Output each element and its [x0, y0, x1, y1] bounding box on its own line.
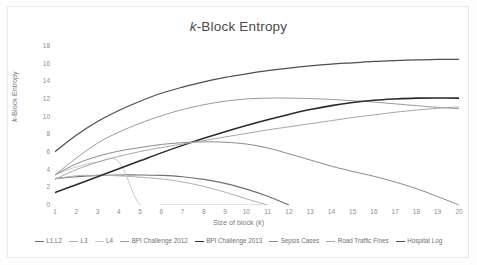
x-axis-tick-label: 4: [111, 208, 127, 215]
y-axis-title: k-Block Entropy: [10, 55, 19, 139]
legend-item[interactable]: Hospital Log: [396, 237, 443, 245]
y-axis-title-rest: -Block Entropy: [10, 71, 19, 118]
chart-page: k-Block Entropy 024681012141618 k-Block …: [0, 0, 477, 265]
y-axis-tick-label: 2: [28, 183, 50, 191]
x-axis-tick-label: 1: [47, 208, 63, 215]
legend-swatch-icon: [95, 241, 104, 242]
x-axis-tick-label: 18: [408, 208, 424, 215]
legend-item[interactable]: Sepsis Cases: [269, 237, 319, 245]
legend-swatch-icon: [326, 241, 335, 242]
x-axis-tick-label: 8: [196, 208, 212, 215]
legend-item-label: BPI Challenge 2013: [206, 237, 262, 245]
y-axis-tick-label: 10: [28, 113, 50, 121]
legend-swatch-icon: [69, 241, 78, 242]
chart-legend: L1,L2L3L4BPI Challenge 2012BPI Challenge…: [0, 237, 477, 245]
x-axis-tick-label: 20: [451, 208, 467, 215]
x-axis-tick-label: 16: [366, 208, 382, 215]
x-axis-tick-label: 9: [217, 208, 233, 215]
legend-item-label: Sepsis Cases: [281, 237, 320, 245]
series-line: [55, 59, 459, 151]
legend-item-label: L3: [81, 237, 88, 245]
x-axis-tick-label: 14: [323, 208, 339, 215]
x-axis-tick-label: 12: [281, 208, 297, 215]
legend-item-label: L4: [106, 237, 113, 245]
x-axis-tick-label: 19: [430, 208, 446, 215]
legend-item-label: Hospital Log: [407, 237, 442, 245]
x-axis-tick-label: 15: [345, 208, 361, 215]
x-axis-tick-label: 7: [175, 208, 191, 215]
legend-item[interactable]: L3: [69, 237, 88, 245]
legend-item-label: Road Traffic Fines: [338, 237, 389, 245]
legend-swatch-icon: [35, 241, 44, 242]
x-axis-tick-label: 6: [153, 208, 169, 215]
y-axis-tick-label: 14: [28, 77, 50, 85]
legend-swatch-icon: [195, 241, 204, 242]
legend-item[interactable]: L4: [95, 237, 114, 245]
series-line: [55, 142, 459, 205]
legend-item[interactable]: L1,L2: [35, 237, 62, 245]
series-line: [55, 175, 268, 205]
x-axis-title: Size of block (k): [0, 218, 477, 227]
y-axis-title-k: k: [10, 118, 19, 122]
plot-area: [55, 46, 459, 205]
series-line: [55, 98, 459, 175]
chart-canvas: [55, 46, 459, 205]
x-axis-tick-label: 5: [132, 208, 148, 215]
y-axis-tick-label: 6: [28, 148, 50, 156]
x-axis-tick-label: 11: [260, 208, 276, 215]
x-axis-tick-label: 2: [68, 208, 84, 215]
chart-title: k-Block Entropy: [0, 19, 477, 34]
legend-item-label: BPI Challenge 2012: [132, 237, 188, 245]
legend-swatch-icon: [396, 241, 405, 242]
x-axis-title-close: ): [262, 218, 264, 227]
legend-item[interactable]: BPI Challenge 2013: [195, 237, 263, 245]
legend-item[interactable]: BPI Challenge 2012: [120, 237, 188, 245]
y-axis-tick-label: 16: [28, 60, 50, 68]
x-axis-tick-label: 13: [302, 208, 318, 215]
x-axis-tick-label: 3: [90, 208, 106, 215]
x-axis-tick-label: 17: [387, 208, 403, 215]
legend-swatch-icon: [269, 241, 278, 242]
legend-item-label: L1,L2: [46, 237, 62, 245]
series-line: [55, 107, 459, 179]
y-axis-tick-label: 18: [28, 42, 50, 50]
legend-item[interactable]: Road Traffic Fines: [326, 237, 388, 245]
x-axis-title-text: Size of block (: [213, 218, 258, 227]
chart-title-k: k: [190, 19, 197, 34]
y-axis-tick-label: 4: [28, 166, 50, 174]
x-axis-tick-label: 10: [238, 208, 254, 215]
y-axis-tick-label: 8: [28, 130, 50, 138]
legend-swatch-icon: [120, 241, 129, 242]
chart-title-rest: -Block Entropy: [197, 19, 288, 34]
y-axis-tick-label: 12: [28, 95, 50, 103]
